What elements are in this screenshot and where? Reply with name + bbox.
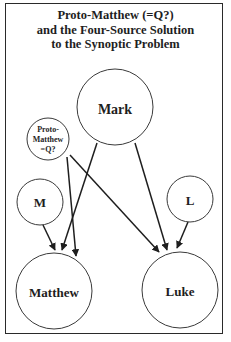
node-proto-matthew-label-line-3: =Q? — [41, 145, 56, 154]
node-proto-matthew: Proto- Matthew =Q? — [27, 118, 69, 160]
synoptic-diagram: Mark Proto- Matthew =Q? M L Matthew Luke — [0, 0, 231, 342]
edge-l-to-luke — [177, 222, 188, 248]
node-mark-label: Mark — [98, 102, 132, 117]
edge-mark-to-luke — [135, 143, 167, 250]
node-l-label: L — [186, 193, 195, 208]
node-matthew-label: Matthew — [29, 285, 79, 300]
edge-proto-matthew-to-matthew — [67, 157, 76, 256]
node-proto-matthew-label-line-1: Proto- — [37, 125, 59, 134]
edge-m-to-matthew — [43, 225, 55, 250]
edge-proto-matthew-to-luke — [70, 155, 159, 252]
node-matthew: Matthew — [16, 253, 92, 329]
node-proto-matthew-label-line-2: Matthew — [33, 135, 64, 144]
node-luke: Luke — [142, 252, 218, 328]
node-m-label: M — [34, 195, 46, 210]
node-m: M — [17, 179, 63, 225]
node-luke-label: Luke — [166, 284, 195, 299]
node-l: L — [167, 176, 213, 222]
node-mark: Mark — [77, 69, 153, 145]
edges — [43, 143, 188, 256]
